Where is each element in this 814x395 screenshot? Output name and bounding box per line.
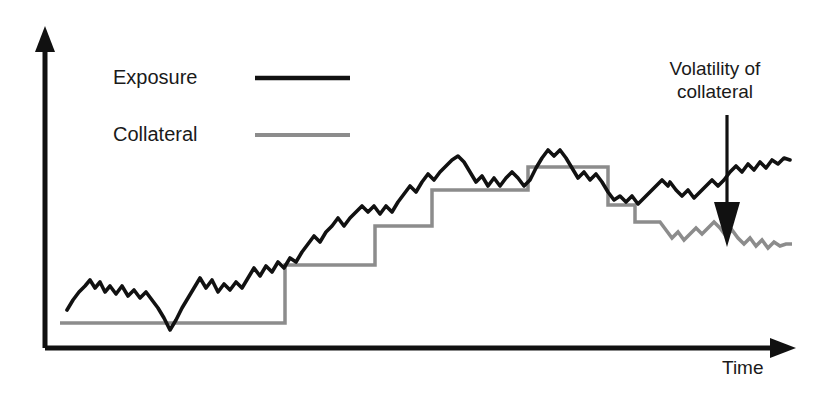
y-axis	[35, 26, 55, 348]
annotation-volatility-of-collateral: Volatility of collateral	[650, 57, 780, 103]
x-axis	[45, 338, 796, 358]
axis-x-label: Time	[722, 357, 764, 379]
annotation-line-1: Volatility of	[650, 57, 780, 80]
annotation-line-2: collateral	[650, 80, 780, 103]
chart-figure: Exposure Collateral Time Volatility of c…	[0, 0, 814, 395]
legend-label-exposure: Exposure	[113, 66, 198, 89]
series-line-exposure	[67, 150, 790, 330]
legend-label-collateral: Collateral	[113, 123, 197, 146]
series-line-collateral	[60, 167, 792, 323]
